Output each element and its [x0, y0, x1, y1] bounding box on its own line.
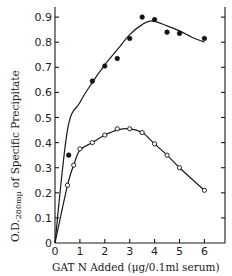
x-tick-label: 0	[52, 245, 59, 258]
open-data-point	[153, 142, 157, 146]
open-data-point	[90, 141, 94, 145]
open-data-point	[202, 188, 206, 192]
filled-data-point	[66, 153, 71, 158]
open-data-point	[177, 166, 181, 170]
open-data-point	[115, 127, 119, 131]
y-tick-label: 0.7	[35, 61, 53, 74]
x-axis-label: GAT N Added (μg/0.1ml serum)	[52, 261, 220, 273]
x-tick-label: 1	[76, 245, 83, 258]
y-tick-label: 0.9	[35, 11, 53, 24]
x-tick-label: 6	[201, 245, 208, 258]
filled-data-point	[202, 36, 207, 41]
open-data-point	[165, 153, 169, 157]
y-tick-label: 0.5	[35, 112, 53, 125]
open-data-point	[65, 183, 69, 187]
y-tick-label: 0.6	[35, 86, 53, 99]
filled-data-point	[177, 31, 182, 36]
x-tick-label: 4	[151, 245, 158, 258]
open-series-curve	[55, 129, 204, 243]
filled-data-point	[140, 15, 145, 20]
fit-curves	[55, 21, 204, 243]
open-data-point	[78, 147, 82, 151]
data-points	[65, 15, 206, 193]
filled-series-curve	[55, 21, 204, 243]
open-data-point	[72, 163, 76, 167]
x-tick-label: 2	[101, 245, 108, 258]
filled-data-point	[103, 64, 108, 69]
filled-data-point	[152, 17, 157, 22]
y-tick-label: 0.3	[35, 162, 53, 175]
filled-data-point	[127, 36, 132, 41]
open-data-point	[128, 127, 132, 131]
chart: 00.10.20.30.40.50.60.70.80.90123456 O.D.…	[0, 0, 232, 276]
filled-data-point	[115, 56, 120, 61]
y-tick-label: 0.8	[35, 36, 53, 49]
x-tick-label: 3	[126, 245, 133, 258]
open-data-point	[140, 130, 144, 134]
y-tick-label: 0.1	[35, 212, 53, 225]
y-tick-label: 0.2	[35, 187, 53, 200]
x-tick-label: 5	[176, 245, 183, 258]
y-tick-label: 0.4	[35, 137, 53, 150]
open-data-point	[103, 133, 107, 137]
y-axis-label: O.D.280mμ of Specific Precipitate	[9, 70, 23, 242]
filled-data-point	[90, 79, 95, 84]
axes: 00.10.20.30.40.50.60.70.80.90123456	[35, 7, 226, 258]
filled-data-point	[165, 30, 170, 35]
